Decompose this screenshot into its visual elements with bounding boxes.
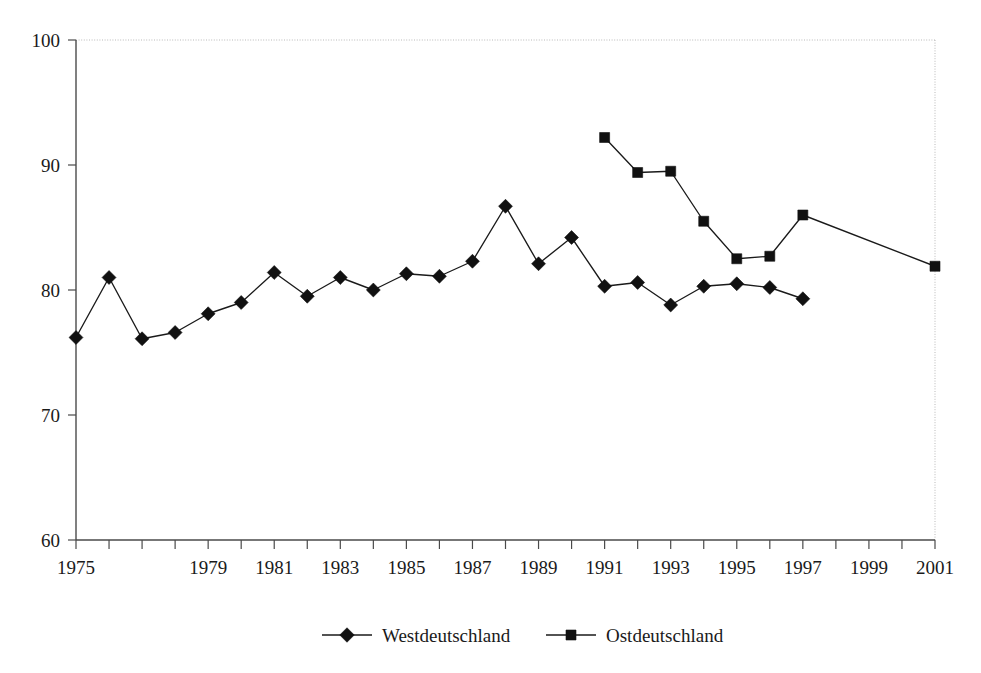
plot-frame [76,40,935,540]
y-tick-label: 80 [41,280,60,301]
series-2 [600,133,940,272]
data-point-marker [300,289,314,303]
x-tick-label: 1997 [784,557,822,578]
chart-legend: WestdeutschlandOstdeutschland [322,625,724,646]
x-tick-label: 1991 [586,557,624,578]
chart-canvas: 60708090100 1975197919811983198519871989… [0,0,981,673]
x-tick-label: 1979 [189,557,227,578]
data-point-marker [697,279,711,293]
data-point-marker [201,307,215,321]
y-tick-label: 70 [41,405,60,426]
data-point-marker [565,231,579,245]
data-point-marker [765,251,775,261]
data-point-marker [466,254,480,268]
data-point-marker [499,199,513,213]
x-tick-label: 1981 [255,557,293,578]
y-axis-tick-labels: 60708090100 [32,30,61,551]
series-line [605,138,935,267]
x-axis-tick-labels: 1975197919811983198519871989199119931995… [57,557,954,578]
data-point-marker [699,216,709,226]
x-tick-label: 1975 [57,557,95,578]
data-point-marker [168,326,182,340]
y-tick-label: 60 [41,530,60,551]
y-axis-ticks [68,40,76,540]
legend-label-1: Westdeutschland [382,625,511,646]
x-tick-label: 1985 [387,557,425,578]
data-point-marker [135,332,149,346]
x-axis-ticks [76,540,935,549]
data-point-marker [366,283,380,297]
x-tick-label: 1987 [453,557,491,578]
data-point-marker [730,277,744,291]
data-point-marker [102,271,116,285]
data-point-marker [796,292,810,306]
data-point-marker [432,269,446,283]
data-point-marker [930,261,940,271]
y-tick-label: 90 [41,155,60,176]
legend-label-2: Ostdeutschland [606,625,724,646]
x-tick-label: 1983 [321,557,359,578]
data-point-marker [532,257,546,271]
data-point-marker [633,168,643,178]
data-point-marker [631,276,645,290]
data-point-marker [600,133,610,143]
data-point-marker [664,298,678,312]
x-tick-label: 1989 [520,557,558,578]
legend-marker-diamond-icon [340,628,355,643]
x-tick-label: 1995 [718,557,756,578]
line-chart: 60708090100 1975197919811983198519871989… [0,0,981,673]
data-point-marker [399,267,413,281]
data-point-marker [69,331,83,345]
data-series-layer [69,133,940,346]
x-tick-label: 1993 [652,557,690,578]
data-point-marker [798,210,808,220]
data-point-marker [598,279,612,293]
data-point-marker [732,254,742,264]
legend-marker-square-icon [566,630,576,640]
x-tick-label: 1999 [850,557,888,578]
data-point-marker [763,281,777,295]
x-tick-label: 2001 [916,557,954,578]
data-point-marker [666,166,676,176]
y-tick-label: 100 [32,30,61,51]
data-point-marker [333,271,347,285]
